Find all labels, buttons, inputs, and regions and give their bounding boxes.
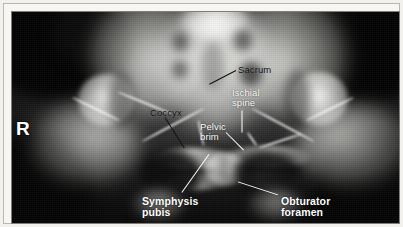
leader-line-sacrum (209, 70, 236, 85)
label-obturator-foramen: Obturator foramen (281, 196, 330, 217)
label-ischial-spine: Ischial spine (232, 88, 260, 107)
label-coccyx: Coccyx (150, 108, 182, 118)
label-pelvic-brim: Pelvic brim (200, 122, 226, 141)
leader-line-symphysis-pubis (181, 154, 209, 193)
annotation-layer: R SacrumIschial spineCoccyxPelvic brimSy… (12, 12, 399, 223)
label-symphysis-pubis: Symphysis pubis (142, 196, 198, 217)
leader-line-pelvic-brim (226, 132, 245, 151)
label-sacrum: Sacrum (238, 65, 271, 75)
figure-border-inner: R SacrumIschial spineCoccyxPelvic brimSy… (11, 11, 400, 224)
figure-border-outer: R SacrumIschial spineCoccyxPelvic brimSy… (3, 3, 400, 224)
leader-line-coccyx (165, 117, 185, 148)
leader-line-obturator-foramen (238, 181, 278, 195)
xray-figure: R SacrumIschial spineCoccyxPelvic brimSy… (0, 0, 403, 227)
leader-line-ischial-spine (242, 111, 243, 133)
side-marker-r: R (16, 118, 30, 140)
